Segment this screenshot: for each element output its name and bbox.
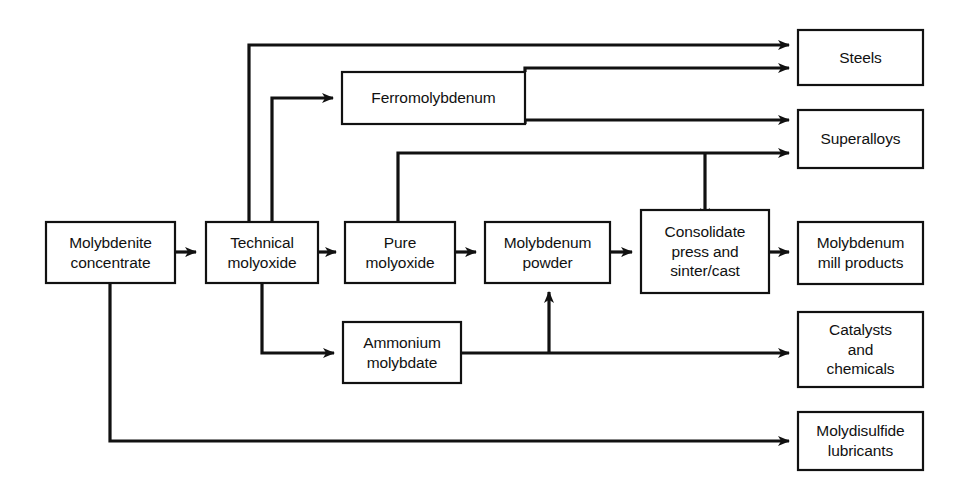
flowchart-svg: [0, 0, 969, 487]
node-box-steels[interactable]: [798, 30, 923, 85]
node-box-ferromolybdenum[interactable]: [342, 72, 525, 124]
connector-ferromolybdenum-to-steels: [525, 68, 789, 72]
nodes-layer: [46, 30, 923, 470]
node-box-consolidate[interactable]: [641, 210, 769, 293]
node-box-molybdenite_concentrate[interactable]: [46, 222, 175, 283]
connector-technical-to-ammonium: [262, 283, 334, 353]
node-box-catalysts_and_chemicals[interactable]: [798, 312, 923, 387]
node-box-ammonium_molybdate[interactable]: [343, 322, 461, 383]
connector-ferromolybdenum-to-superalloys: [525, 120, 789, 124]
node-box-superalloys[interactable]: [798, 110, 923, 168]
node-box-molybdenum_powder[interactable]: [485, 222, 610, 283]
node-box-molybdenum_mill_products[interactable]: [798, 222, 923, 284]
node-box-pure_molyoxide[interactable]: [345, 222, 455, 283]
connector-technical-to-ferromolybdenum: [272, 98, 333, 222]
node-box-technical_molyoxide[interactable]: [206, 222, 318, 283]
flowchart-canvas: Molybdenite concentrateTechnical molyoxi…: [0, 0, 969, 487]
node-box-molydisulfide_lubricants[interactable]: [798, 412, 923, 470]
